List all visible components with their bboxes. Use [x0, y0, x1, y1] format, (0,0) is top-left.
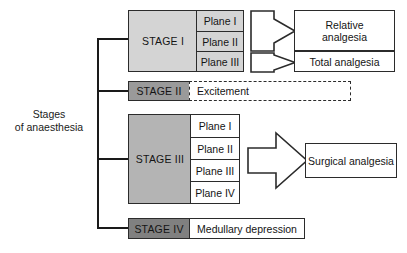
- bracket-arm-stage-2: [97, 90, 128, 92]
- stage-3-label-box: STAGE III: [128, 114, 191, 204]
- outcome-relative-analgesia-line1: Relative: [326, 19, 364, 31]
- stage-1-plane-1-label: Plane I: [204, 15, 237, 27]
- stage-1-label: STAGE I: [142, 35, 184, 47]
- root-label-line1: Stages: [6, 108, 92, 121]
- bracket-arm-stage-1: [97, 38, 128, 40]
- stage-3-plane-3-label: Plane III: [196, 165, 235, 177]
- stage-3-plane-1: Plane I: [190, 114, 240, 137]
- outcome-surgical-analgesia: Surgical analgesia: [305, 143, 397, 178]
- bracket-arm-stage-4: [97, 227, 128, 229]
- stage-4-label-box: STAGE IV: [128, 218, 190, 239]
- stage-3-plane-1-label: Plane I: [199, 120, 232, 132]
- stage-1-plane-2: Plane II: [196, 31, 244, 52]
- outcome-relative-analgesia-line2: analgesia: [322, 31, 367, 43]
- root-label-line2: of anaesthesia: [6, 121, 92, 134]
- stage-1-plane-2-label: Plane II: [202, 36, 238, 48]
- arrow-to-total-analgesia: [250, 52, 296, 73]
- stage-3-plane-4-label: Plane IV: [195, 187, 235, 199]
- stage-2-label-box: STAGE II: [128, 81, 190, 101]
- stage-1-plane-3-label: Plane III: [201, 56, 240, 68]
- bracket-arm-stage-3: [97, 158, 128, 160]
- stage-3-plane-2-label: Plane II: [197, 143, 233, 155]
- outcome-excitement-label: Excitement: [197, 85, 249, 97]
- stage-1-plane-3: Plane III: [196, 52, 244, 72]
- root-label: Stages of anaesthesia: [6, 108, 92, 134]
- outcome-total-analgesia-label: Total analgesia: [309, 56, 379, 68]
- outcome-relative-analgesia: Relative analgesia: [294, 10, 395, 51]
- outcome-surgical-analgesia-label: Surgical analgesia: [308, 155, 394, 167]
- stage-2-label: STAGE II: [136, 85, 181, 97]
- stage-3-plane-2: Plane II: [190, 137, 240, 159]
- stage-1-plane-1: Plane I: [196, 10, 244, 31]
- diagram-canvas: Stages of anaesthesia STAGE I Plane I Pl…: [0, 0, 407, 253]
- bracket-spine: [97, 38, 99, 229]
- outcome-medullary-depression-label: Medullary depression: [197, 223, 297, 235]
- stage-3-plane-4: Plane IV: [190, 181, 240, 204]
- stage-4-label: STAGE IV: [134, 223, 183, 235]
- stage-3-label: STAGE III: [136, 153, 184, 165]
- stage-3-plane-3: Plane III: [190, 159, 240, 181]
- arrow-to-surgical-analgesia: [247, 132, 309, 189]
- outcome-excitement: Excitement: [189, 81, 351, 101]
- stage-1-label-box: STAGE I: [128, 10, 197, 72]
- outcome-medullary-depression: Medullary depression: [189, 218, 305, 239]
- outcome-total-analgesia: Total analgesia: [294, 51, 395, 72]
- arrow-to-relative-analgesia: [250, 10, 296, 52]
